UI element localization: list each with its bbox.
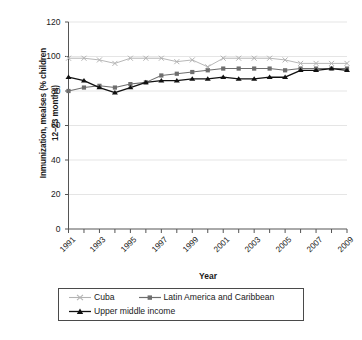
y-tick-label: 20 xyxy=(35,190,61,199)
legend-label-upper-middle-income: Upper middle income xyxy=(94,306,175,316)
y-tick-label: 80 xyxy=(35,87,61,96)
legend-marker-triangle-icon xyxy=(69,307,91,316)
legend-item-latin-america-and-caribbean[interactable]: Latin America and Caribbean xyxy=(139,292,275,302)
y-tick-label: 120 xyxy=(35,18,61,27)
legend-marker-square-icon xyxy=(139,293,161,302)
legend-item-cuba[interactable]: Cuba xyxy=(69,292,115,302)
x-axis-title: Year xyxy=(68,271,348,281)
y-tick-label: 60 xyxy=(35,121,61,130)
legend-item-upper-middle-income[interactable]: Upper middle income xyxy=(69,306,175,316)
legend-row-bottom: Upper middle income xyxy=(69,306,175,316)
legend-row-top: Cuba Latin America and Caribbean xyxy=(69,292,274,302)
legend-label-latin-america-and-caribbean: Latin America and Caribbean xyxy=(164,292,275,302)
y-tick-label: 100 xyxy=(35,52,61,61)
legend-label-cuba: Cuba xyxy=(94,292,115,302)
y-tick-label: 0 xyxy=(35,225,61,234)
chart-legend: Cuba Latin America and Caribbean Upper m… xyxy=(58,288,304,321)
y-tick-label: 40 xyxy=(35,156,61,165)
chart-figure: Inmunization, mealses (% children 12–23 … xyxy=(0,0,362,340)
legend-marker-x-icon xyxy=(69,293,91,302)
